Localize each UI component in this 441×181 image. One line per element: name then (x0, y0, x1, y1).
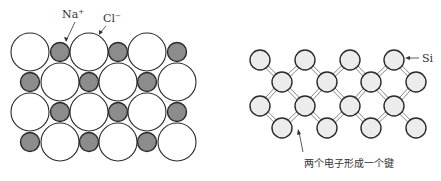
nacl-lattice-diagram (11, 33, 196, 161)
si-label: Si (422, 52, 434, 65)
na-ion (51, 103, 70, 122)
na-ion (168, 43, 187, 62)
si-atom (317, 72, 337, 92)
si-atom (250, 96, 270, 116)
si-atom (340, 96, 360, 116)
si-atom (250, 50, 270, 70)
cl-ion (99, 63, 137, 101)
cl-ion (41, 123, 79, 161)
na-ion (109, 103, 128, 122)
cl-ion (11, 93, 49, 131)
bond-arrow-head (297, 129, 301, 135)
si-atom (295, 50, 315, 70)
cl-ion (158, 63, 196, 101)
si-atom (272, 72, 292, 92)
bond-caption: 两个电子形成一个键 (304, 157, 394, 169)
bond-arrow-line (299, 132, 303, 152)
si-atom (384, 50, 404, 70)
na-ion (51, 43, 70, 62)
si-atom (384, 96, 404, 116)
si-atom (361, 118, 381, 138)
cl-ion (128, 93, 166, 131)
na-ion (109, 43, 128, 62)
na-ion (21, 133, 40, 152)
na-ion (21, 73, 40, 92)
si-labels: Si 两个电子形成一个键 (297, 52, 434, 169)
cl-ion (99, 123, 137, 161)
si-atom (406, 72, 426, 92)
cl-ion (11, 33, 49, 71)
na-ion (168, 103, 187, 122)
si-atom (361, 72, 381, 92)
si-arrow-head (405, 56, 410, 60)
si-lattice-diagram (250, 50, 426, 138)
na-ion (138, 73, 157, 92)
na-label: Na+ (62, 8, 84, 21)
crystal-diagrams: Na+ Cl− Si 两个电子形成一个键 (0, 0, 441, 181)
na-ion (138, 133, 157, 152)
si-atom (340, 50, 360, 70)
na-ion (80, 133, 99, 152)
cl-ion (70, 93, 108, 131)
cl-label: Cl− (103, 12, 121, 25)
cl-ion (158, 123, 196, 161)
si-atom (406, 118, 426, 138)
si-atom (272, 118, 292, 138)
cl-ion (41, 63, 79, 101)
si-atom (295, 96, 315, 116)
cl-ion (70, 33, 108, 71)
si-atom (317, 118, 337, 138)
cl-ion (128, 33, 166, 71)
na-ion (80, 73, 99, 92)
